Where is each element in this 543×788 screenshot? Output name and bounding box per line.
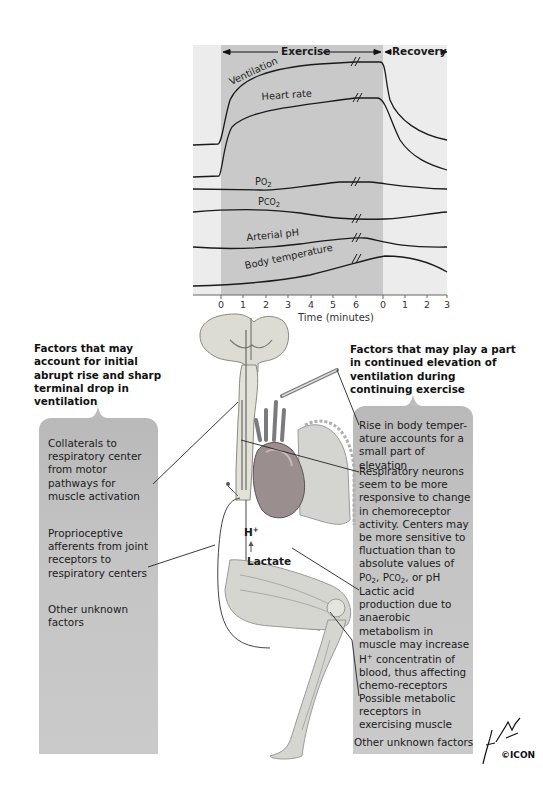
brain-icon bbox=[200, 314, 289, 372]
heart-icon bbox=[253, 443, 304, 518]
lactate-label: Lactate bbox=[247, 555, 291, 567]
anatomy-illustration bbox=[0, 0, 543, 788]
h-plus-label: H+ bbox=[244, 526, 259, 538]
thermometer-icon bbox=[282, 370, 337, 396]
publisher-logo: ©ICON bbox=[501, 750, 535, 760]
